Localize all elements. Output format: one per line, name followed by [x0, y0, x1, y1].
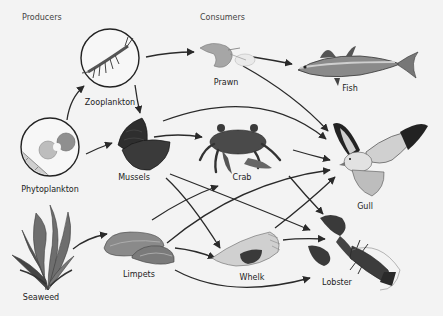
whelk-icon [212, 232, 280, 266]
arrow-mussels-lobster [170, 174, 310, 230]
arrow-mussels-crab [154, 135, 202, 137]
arrow-phyto-zoo [67, 86, 84, 120]
arrow-prawn-fish [253, 57, 292, 64]
arrow-whelk-lobster [283, 239, 325, 240]
arrow-crab-lobster [289, 176, 323, 214]
zooplankton-icon [81, 29, 139, 87]
limpets-icon [104, 232, 174, 264]
fish-icon [298, 46, 418, 86]
arrow-crab-gull [293, 150, 330, 160]
arrow-seaweed-limpets [73, 234, 107, 249]
label-fish: Fish [342, 84, 357, 93]
crab-icon [200, 124, 280, 174]
label-lobster: Lobster [322, 278, 352, 287]
phytoplankton-icon [14, 118, 79, 188]
food-web-diagram [0, 0, 443, 316]
label-crab: Crab [233, 173, 252, 182]
arrow-zoo-mussels [135, 85, 140, 113]
prawn-icon [200, 43, 255, 67]
mussels-icon [118, 118, 170, 170]
arrow-phyto-mussels [86, 143, 112, 154]
arrow-zoo-prawn [146, 52, 194, 57]
label-mussels: Mussels [118, 173, 150, 182]
seaweed-icon [12, 205, 74, 290]
label-gull: Gull [357, 202, 373, 211]
label-whelk: Whelk [240, 273, 265, 282]
label-prawn: Prawn [214, 78, 239, 87]
arrow-limpets-whelk [175, 248, 215, 258]
label-seaweed: Seaweed [23, 293, 59, 302]
label-limpets: Limpets [123, 270, 155, 279]
gull-icon [333, 123, 428, 196]
arrow-prawn-gull [243, 66, 328, 131]
arrow-limpets-crab [152, 186, 218, 220]
label-phytoplankton: Phytoplankton [21, 185, 79, 194]
label-zooplankton: Zooplankton [85, 98, 135, 107]
